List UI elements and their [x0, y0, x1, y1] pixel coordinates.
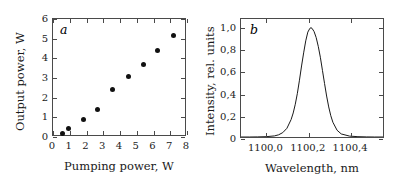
panel-b: b 1100,01100,21100,4 00,20,40,60,81,0 Wa… [196, 0, 393, 192]
x-tick-label-a: 1 [66, 140, 72, 151]
y-tick-right-a [181, 78, 185, 79]
data-point-a [141, 62, 146, 67]
y-tick-right-b [379, 28, 383, 29]
plot-area-a [53, 19, 185, 135]
spectrum-curve-b [241, 19, 383, 137]
x-axis-title-a: Pumping power, W [64, 160, 174, 173]
x-tick-b [266, 133, 267, 137]
y-tick-right-b [379, 117, 383, 118]
y-tick-a [53, 137, 57, 138]
y-tick-right-a [181, 39, 185, 40]
plot-area-b [241, 19, 383, 137]
y-tick-b [241, 139, 245, 140]
x-tick-a [53, 131, 54, 135]
y-tick-label-a: 6 [30, 13, 48, 24]
x-tick-label-b: 1100,0 [248, 142, 283, 153]
y-tick-label-b: 0,2 [214, 110, 236, 121]
y-tick-label-a: 1 [30, 111, 48, 122]
y-tick-a [53, 19, 57, 20]
x-tick-a [120, 131, 121, 135]
y-tick-label-b: 1,0 [214, 21, 236, 32]
x-tick-label-b: 1100,4 [333, 142, 368, 153]
y-tick-label-b: 0,6 [214, 66, 236, 77]
x-tick-a [103, 131, 104, 135]
y-tick-label-a: 2 [30, 91, 48, 102]
x-tick-a [170, 131, 171, 135]
y-tick-label-a: 4 [30, 52, 48, 63]
x-tick-label-b: 1100,2 [290, 142, 325, 153]
x-tick-label-a: 8 [183, 140, 189, 151]
figure-container: a 012345678 0123456 Pumping power, W Out… [0, 0, 393, 192]
x-tick-label-a: 5 [133, 140, 139, 151]
y-axis-title-b: Intensity, rel. units [204, 26, 217, 136]
y-tick-label-a: 3 [30, 72, 48, 83]
y-tick-label-a: 5 [30, 32, 48, 43]
plot-frame-b: b [240, 18, 384, 138]
x-tick-top-b [266, 19, 267, 23]
x-tick-top-a [120, 19, 121, 23]
x-tick-top-a [137, 19, 138, 23]
x-tick-top-a [170, 19, 171, 23]
y-tick-label-b: 0,4 [214, 88, 236, 99]
x-tick-a [87, 131, 88, 135]
x-tick-a [137, 131, 138, 135]
y-tick-right-b [379, 139, 383, 140]
y-tick-a [53, 78, 57, 79]
y-tick-a [53, 98, 57, 99]
y-tick-right-b [379, 72, 383, 73]
y-tick-right-a [181, 117, 185, 118]
spectrum-curve-path [241, 28, 383, 137]
data-point-a [81, 117, 86, 122]
y-tick-label-a: 0 [30, 131, 48, 142]
y-tick-label-b: 0 [214, 133, 236, 144]
x-tick-a [70, 131, 71, 135]
data-point-a [66, 126, 71, 131]
y-tick-right-b [379, 95, 383, 96]
x-tick-top-b [351, 19, 352, 23]
x-tick-label-a: 4 [116, 140, 122, 151]
y-tick-label-b: 0,8 [214, 44, 236, 55]
y-tick-right-a [181, 19, 185, 20]
x-tick-top-a [103, 19, 104, 23]
panel-a: a 012345678 0123456 Pumping power, W Out… [0, 0, 196, 192]
y-tick-right-b [379, 50, 383, 51]
y-tick-a [53, 39, 57, 40]
x-tick-label-a: 0 [49, 140, 55, 151]
y-tick-right-a [181, 98, 185, 99]
data-point-a [60, 131, 65, 136]
y-axis-title-a: Output power, W [14, 32, 27, 131]
x-tick-top-b [309, 19, 310, 23]
x-tick-label-a: 3 [99, 140, 105, 151]
x-tick-top-a [87, 19, 88, 23]
y-tick-b [241, 50, 245, 51]
y-tick-b [241, 72, 245, 73]
x-tick-a [187, 131, 188, 135]
y-tick-a [53, 117, 57, 118]
x-axis-title-b: Wavelength, nm [265, 162, 359, 175]
plot-frame-a: a [52, 18, 186, 136]
data-point-a [126, 74, 131, 79]
x-tick-top-a [187, 19, 188, 23]
y-tick-right-a [181, 58, 185, 59]
y-tick-b [241, 117, 245, 118]
x-tick-top-a [70, 19, 71, 23]
x-tick-b [309, 133, 310, 137]
x-tick-b [351, 133, 352, 137]
y-tick-a [53, 58, 57, 59]
x-tick-label-a: 2 [82, 140, 88, 151]
x-tick-top-a [154, 19, 155, 23]
y-tick-right-a [181, 137, 185, 138]
y-tick-b [241, 95, 245, 96]
y-tick-b [241, 28, 245, 29]
x-tick-a [154, 131, 155, 135]
x-tick-label-a: 7 [166, 140, 172, 151]
x-tick-label-a: 6 [149, 140, 155, 151]
